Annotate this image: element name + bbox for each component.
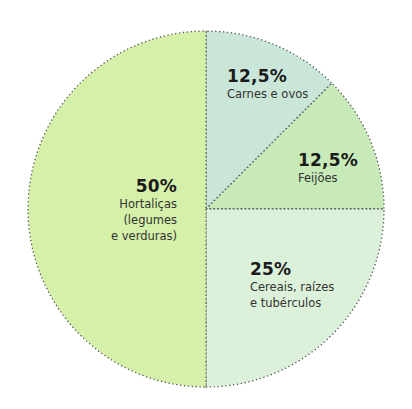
label-feijoes: 12,5% Feijões <box>298 150 358 186</box>
name-feijoes: Feijões <box>298 170 358 186</box>
name-hortalicas-line1: Hortaliças <box>76 196 177 212</box>
percent-carnes: 12,5% <box>227 66 308 86</box>
name-cereais-line1: Cereais, raízes <box>250 279 334 295</box>
name-hortalicas-line2: (legumes <box>76 212 177 228</box>
label-hortalicas: 50% Hortaliças (legumes e verduras) <box>76 176 177 244</box>
name-hortalicas-line3: e verduras) <box>76 228 177 244</box>
label-cereais: 25% Cereais, raízes e tubérculos <box>250 259 334 311</box>
label-carnes-e-ovos: 12,5% Carnes e ovos <box>227 66 308 102</box>
percent-feijoes: 12,5% <box>298 150 358 170</box>
name-carnes: Carnes e ovos <box>227 86 308 102</box>
percent-hortalicas: 50% <box>76 176 177 196</box>
name-cereais-line2: e tubérculos <box>250 295 334 311</box>
percent-cereais: 25% <box>250 259 334 279</box>
pie-chart <box>0 0 412 409</box>
